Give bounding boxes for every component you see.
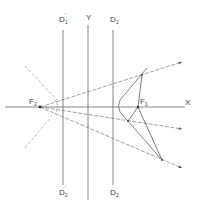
point-p1 xyxy=(141,74,143,76)
label-x-axis: X xyxy=(185,98,191,107)
label-d1-prime-sub: 1 xyxy=(65,19,68,25)
ray-middle xyxy=(40,107,182,129)
dashed-line-lower-left xyxy=(25,116,52,148)
label-f2-sub: 2 xyxy=(34,101,37,107)
label-d2-prime-sub: 2 xyxy=(65,192,68,198)
f1-to-p2 xyxy=(128,107,138,121)
dashed-line-upper-left xyxy=(25,66,57,100)
focus-f2-point xyxy=(39,106,42,109)
point-p2 xyxy=(127,120,129,122)
label-d2-prime-sup: ' xyxy=(65,185,66,191)
hyperbola-diagram: D ' 1 Y D 1 D ' 2 D 2 F 2 F 1 X xyxy=(0,0,203,201)
point-p3 xyxy=(161,159,163,161)
label-y-axis: Y xyxy=(86,13,92,22)
f1-to-p3 xyxy=(138,107,162,160)
label-d1-prime-sup: ' xyxy=(65,12,66,18)
ray-upper xyxy=(40,62,182,107)
focus-f1-point xyxy=(137,106,139,108)
label-f1-sub: 1 xyxy=(145,101,148,107)
label-d1-sub: 1 xyxy=(116,19,119,25)
label-d2-sub: 2 xyxy=(116,192,119,198)
